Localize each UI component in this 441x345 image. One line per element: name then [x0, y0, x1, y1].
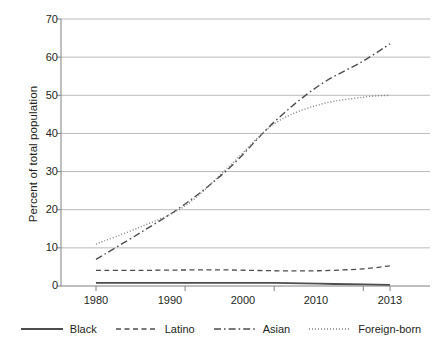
legend-item-asian: Asian — [213, 323, 291, 335]
series-line-asian — [96, 44, 390, 260]
y-tick-label: 70 — [32, 14, 58, 25]
line-chart: Percent of total population 70 60 50 40 … — [0, 0, 441, 345]
legend-label: Asian — [263, 323, 291, 335]
series-line-black — [96, 283, 390, 285]
y-tick-label: 30 — [32, 166, 58, 177]
series-line-latino — [96, 266, 390, 271]
x-tick-label: 1990 — [146, 294, 194, 306]
legend-label: Foreign-born — [358, 323, 421, 335]
chart-legend: Black Latino Asian Foreign-born — [0, 318, 441, 340]
legend-item-foreign-born: Foreign-born — [308, 323, 421, 335]
legend-item-black: Black — [20, 323, 97, 335]
legend-label: Latino — [165, 323, 195, 335]
legend-item-latino: Latino — [115, 323, 195, 335]
x-tick-label: 1980 — [72, 294, 120, 306]
y-tick-label: 60 — [32, 52, 58, 63]
legend-swatch-solid-icon — [20, 324, 64, 334]
y-tick-label: 40 — [32, 128, 58, 139]
y-tick-label: 10 — [32, 242, 58, 253]
legend-swatch-dotted-icon — [308, 324, 352, 334]
legend-swatch-dashed-icon — [115, 324, 159, 334]
y-tick-label: 50 — [32, 90, 58, 101]
y-tick-label: 0 — [32, 280, 58, 291]
y-tick-label: 20 — [32, 204, 58, 215]
x-tick-label: 2010 — [292, 294, 340, 306]
y-axis-tick-labels: 70 60 50 40 30 20 10 0 — [28, 0, 58, 345]
x-tick-label: 2013 — [366, 294, 414, 306]
x-tick-label: 2000 — [219, 294, 267, 306]
series-line-foreign-born — [96, 95, 390, 244]
legend-label: Black — [70, 323, 97, 335]
legend-swatch-dashdot-icon — [213, 324, 257, 334]
